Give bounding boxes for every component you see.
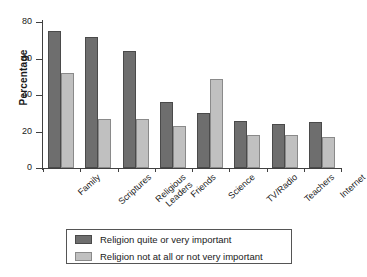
bar (322, 137, 335, 168)
bar-group (309, 22, 335, 168)
x-tick (341, 168, 342, 172)
x-axis-label-line: Internet (338, 172, 367, 200)
bar (123, 51, 136, 168)
bar (48, 31, 61, 168)
y-tick-label: 0 (0, 163, 32, 172)
x-tick (155, 168, 156, 172)
legend-item: Religion quite or very important (75, 232, 291, 247)
x-axis-label: Science (226, 172, 256, 201)
legend-label: Religion not at all or not very importan… (100, 252, 263, 262)
x-axis-label: Teachers (302, 172, 336, 204)
x-axis-label: Internet (338, 172, 367, 200)
plot-area (43, 22, 341, 168)
legend-swatch-light-icon (75, 252, 92, 261)
x-axis-label-line: Family (76, 172, 102, 197)
x-tick (304, 168, 305, 172)
bar-group (123, 22, 149, 168)
x-axis-label-line: TV/Radio (265, 172, 300, 205)
x-tick (229, 168, 230, 172)
bar (197, 113, 210, 168)
x-axis-label-line: Science (226, 172, 256, 201)
x-tick (80, 168, 81, 172)
bar-group (160, 22, 186, 168)
bar (309, 122, 322, 168)
bar (136, 119, 149, 168)
x-axis-label: Family (76, 172, 102, 197)
x-tick (118, 168, 119, 172)
y-tick-label: 60 (0, 54, 32, 63)
x-axis-label: TV/Radio (265, 172, 300, 205)
y-tick-label: 20 (0, 127, 32, 136)
legend-item: Religion not at all or not very importan… (75, 249, 291, 264)
bar-group (234, 22, 260, 168)
x-tick (43, 168, 44, 172)
bar (247, 135, 260, 168)
legend-label: Religion quite or very important (100, 235, 231, 245)
bar (61, 73, 74, 168)
x-tick (192, 168, 193, 172)
bar (98, 119, 111, 168)
y-tick-label: 40 (0, 90, 32, 99)
x-axis-label: Scriptures (117, 172, 154, 207)
x-axis-label-line: Scriptures (117, 172, 154, 207)
bar (160, 102, 173, 168)
bar-group (272, 22, 298, 168)
bar (85, 37, 98, 168)
bar (173, 126, 186, 168)
bar (210, 79, 223, 168)
bar (285, 135, 298, 168)
bar-group (85, 22, 111, 168)
bar-group (197, 22, 223, 168)
bar (234, 121, 247, 168)
chart-legend: Religion quite or very important Religio… (66, 229, 292, 264)
y-tick-label: 80 (0, 17, 32, 26)
bar (272, 124, 285, 168)
x-tick (267, 168, 268, 172)
x-axis-label-line: Teachers (302, 172, 336, 204)
bar-group (48, 22, 74, 168)
legend-swatch-dark-icon (75, 235, 92, 244)
y-axis-title: Percentage (18, 33, 29, 123)
